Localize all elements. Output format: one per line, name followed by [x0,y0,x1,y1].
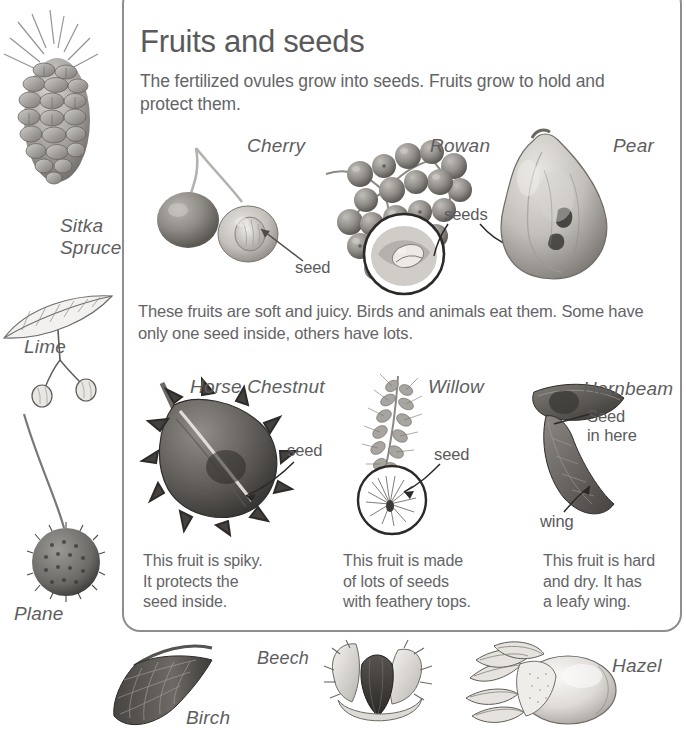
specimen-label-pear: Pear [613,135,654,157]
sitka-spruce-line2: Spruce [60,237,121,258]
beech-illustration [290,640,470,730]
specimen-label-beech: Beech [257,648,309,669]
specimen-label-hazel: Hazel [612,655,662,677]
sidebar-label-sitka-spruce: Sitka Spruce [60,215,121,259]
caption-hornbeam-l3: a leafy wing. [543,593,631,610]
caption-hornbeam: This fruit is hard and dry. It has a lea… [543,551,686,613]
sitka-spruce-line1: Sitka [60,215,103,236]
specimen-label-horse-chestnut: Horse Chestnut [190,376,325,398]
specimen-label-willow: Willow [428,376,484,398]
rowan-magnifier-circle [360,210,450,300]
callout-willow-seed: seed [434,445,469,464]
callout-hornbeam-seed: Seed in here [587,407,637,445]
hazel-illustration [460,640,650,730]
fleshy-fruits-description: These fruits are soft and juicy. Birds a… [138,300,658,344]
sidebar-label-plane: Plane [14,603,64,625]
caption-willow-l2: of lots of seeds [343,573,449,590]
caption-horse-chestnut-l2: It protects the [143,573,238,590]
sidebar-label-lime: Lime [24,336,66,358]
sitka-spruce-illustration [2,8,112,213]
callout-hornbeam-wing: wing [540,512,574,531]
page-title: Fruits and seeds [140,24,364,60]
callout-hornbeam-seed-line1: Seed [587,407,625,425]
intro-paragraph: The fertilized ovules grow into seeds. F… [140,70,660,116]
caption-horse-chestnut-l3: seed inside. [143,593,227,610]
caption-hornbeam-l1: This fruit is hard [543,552,655,569]
specimen-label-cherry: Cherry [247,135,305,157]
caption-horse-chestnut-l1: This fruit is spiky. [143,552,263,569]
callout-hornbeam-seed-line2: in here [587,426,637,444]
caption-willow-l1: This fruit is made [343,552,463,569]
caption-willow-l3: with feathery tops. [343,593,471,610]
callout-horse-chestnut-seed: seed [287,441,322,460]
horse-chestnut-illustration [140,375,300,535]
hornbeam-illustration [520,378,660,528]
cherry-illustration [150,140,310,280]
caption-horse-chestnut: This fruit is spiky. It protects the see… [143,551,323,613]
specimen-label-hornbeam: Hornbeam [583,378,673,400]
willow-magnifier-circle [352,462,432,542]
caption-hornbeam-l2: and dry. It has [543,573,642,590]
caption-willow: This fruit is made of lots of seeds with… [343,551,523,613]
specimen-label-birch: Birch [186,707,230,729]
plane-illustration [8,412,118,602]
